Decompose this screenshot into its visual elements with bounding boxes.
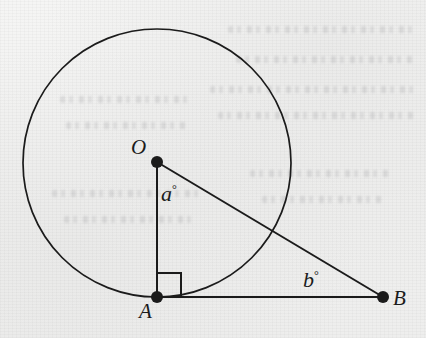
- degree-symbol-b: °: [314, 268, 319, 282]
- label-point-b: B: [393, 288, 406, 309]
- angle-b-letter: b: [303, 267, 314, 292]
- point-dot-a: [151, 291, 163, 303]
- figure-canvas: O A B a° b°: [0, 0, 426, 338]
- label-point-a: A: [139, 301, 152, 322]
- label-angle-a: a°: [161, 183, 177, 205]
- degree-symbol-a: °: [172, 182, 177, 196]
- segment-ob: [157, 162, 383, 297]
- geometry-diagram: [0, 0, 426, 338]
- angle-a-letter: a: [161, 181, 172, 206]
- point-dot-o: [151, 156, 163, 168]
- label-angle-b: b°: [303, 269, 319, 291]
- label-point-o: O: [131, 137, 146, 158]
- point-dot-b: [377, 291, 389, 303]
